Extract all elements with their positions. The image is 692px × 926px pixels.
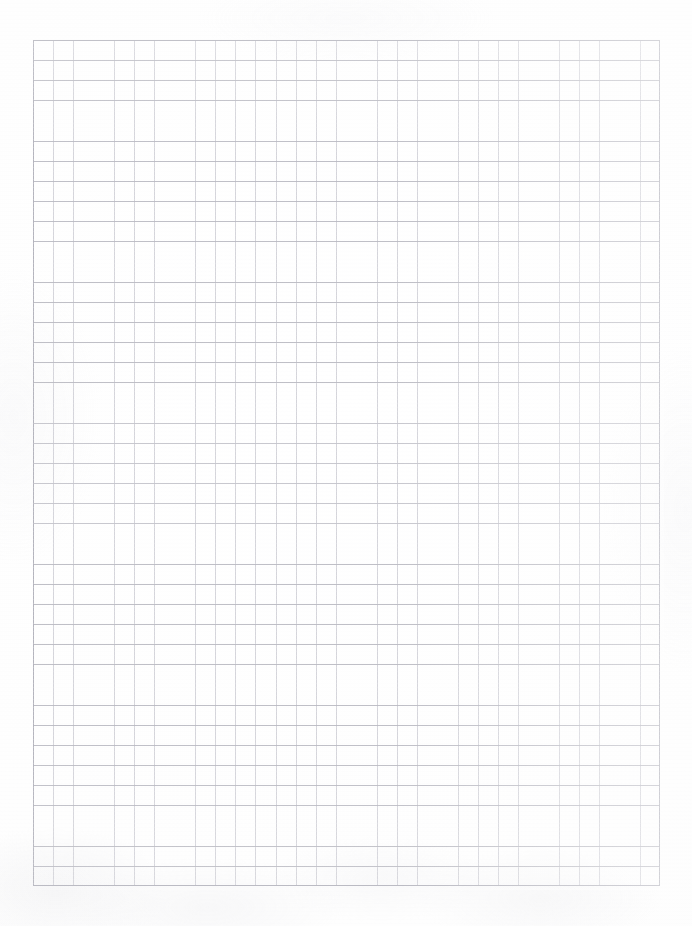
scanned-page — [0, 0, 692, 926]
grid-outer-border — [33, 40, 660, 886]
graph-paper-grid — [33, 40, 660, 886]
